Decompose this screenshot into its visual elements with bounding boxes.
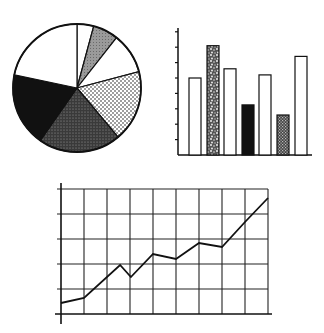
charts-canvas — [0, 0, 324, 333]
pie-chart — [13, 24, 141, 152]
bar-3 — [224, 69, 236, 155]
line-chart — [55, 183, 272, 324]
bar-5 — [259, 75, 271, 155]
bar-1 — [189, 78, 201, 155]
bar-4 — [242, 105, 254, 155]
bar-chart — [175, 28, 312, 155]
bar-2 — [207, 46, 219, 155]
bar-6 — [277, 115, 289, 155]
bar-7 — [295, 56, 307, 155]
